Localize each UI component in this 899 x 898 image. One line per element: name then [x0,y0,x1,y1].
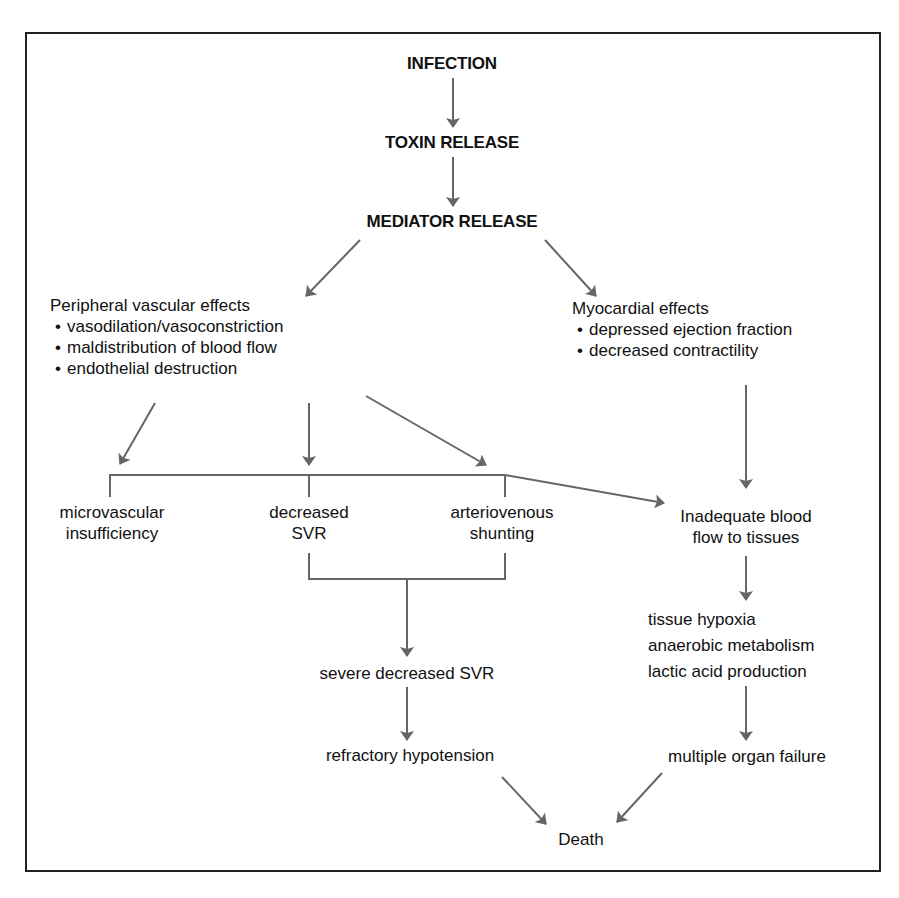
node-myocardial-effects: Myocardial effects depressed ejection fr… [572,298,792,361]
node-arteriovenous-shunting: arteriovenous shunting [450,502,553,544]
node-toxin-release: TOXIN RELEASE [385,132,519,153]
bracket-top [110,475,505,497]
arrow-mediator-to-myocardial [545,240,596,296]
node-refractory-hypotension: refractory hypotension [326,745,494,766]
peripheral-list: vasodilation/vasoconstriction maldistrib… [50,316,283,379]
node-line: SVR [269,523,348,544]
node-line: lactic acid production [648,659,814,685]
node-death: Death [558,829,603,850]
node-line: Inadequate blood [680,506,811,527]
node-infection: INFECTION [407,53,497,74]
node-decreased-svr: decreased SVR [269,502,348,544]
node-line: decreased [269,502,348,523]
node-mediator-release: MEDIATOR RELEASE [367,211,538,232]
bracket-bottom [309,553,505,579]
arrow-refractory-to-death [502,777,546,824]
node-multiple-organ-failure: multiple organ failure [668,746,826,767]
arrow-organ-failure-to-death [617,773,662,822]
node-line: flow to tissues [680,527,811,548]
node-line: insufficiency [60,523,165,544]
node-severe-decreased-svr: severe decreased SVR [320,663,495,684]
arrow-peripheral-to-microvascular [120,403,155,464]
arrow-peripheral-to-shunting [366,396,486,465]
peripheral-item: vasodilation/vasoconstriction [50,316,283,337]
node-microvascular-insufficiency: microvascular insufficiency [60,502,165,544]
peripheral-item: maldistribution of blood flow [50,337,283,358]
node-tissue-effects: tissue hypoxia anaerobic metabolism lact… [648,607,814,685]
node-line: tissue hypoxia [648,607,814,633]
node-peripheral-vascular-effects: Peripheral vascular effects vasodilation… [50,295,283,379]
node-line: shunting [450,523,553,544]
peripheral-item: endothelial destruction [50,358,283,379]
node-line: microvascular [60,502,165,523]
myocardial-item: decreased contractility [572,340,792,361]
node-line: arteriovenous [450,502,553,523]
arrow-bracket-to-inadequate [505,475,664,503]
arrow-mediator-to-peripheral [306,240,360,296]
node-inadequate-blood-flow: Inadequate blood flow to tissues [680,506,811,548]
node-line: anaerobic metabolism [648,633,814,659]
myocardial-item: depressed ejection fraction [572,319,792,340]
peripheral-title: Peripheral vascular effects [50,295,283,316]
myocardial-title: Myocardial effects [572,298,792,319]
myocardial-list: depressed ejection fraction decreased co… [572,319,792,361]
